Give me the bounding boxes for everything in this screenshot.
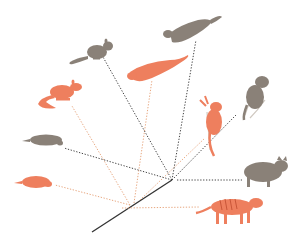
gray-wolf-icon bbox=[244, 156, 288, 187]
gray-mole-icon bbox=[22, 135, 63, 146]
branch-orange-glider bbox=[134, 80, 152, 203]
branch-orange-mole bbox=[55, 185, 130, 205]
branch-gray-lemur bbox=[172, 114, 237, 180]
branch-orange-thylacine bbox=[122, 207, 200, 208]
orange-tree-kangaroo-icon bbox=[200, 96, 222, 156]
branch-orange-rat bbox=[72, 106, 130, 205]
phylogenetic-tree-diagram bbox=[0, 0, 294, 244]
orange-branches bbox=[55, 80, 205, 208]
orange-rat-icon bbox=[38, 80, 82, 109]
branch-orange-kangaroo bbox=[140, 138, 205, 200]
orange-marsupial-mole-icon bbox=[14, 176, 52, 188]
orange-thylacine-icon bbox=[196, 198, 263, 224]
branch-gray-mole bbox=[64, 148, 172, 180]
gray-jumping-rodent-icon bbox=[69, 39, 113, 65]
tree-trunk bbox=[92, 180, 172, 232]
gray-flying-squirrel-icon bbox=[163, 16, 222, 43]
orange-sugar-glider-icon bbox=[127, 55, 188, 81]
gray-lemur-icon bbox=[244, 76, 269, 120]
